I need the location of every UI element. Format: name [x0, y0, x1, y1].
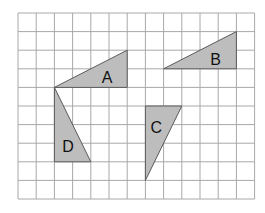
triangle-label: C — [151, 119, 163, 136]
triangle-label: A — [102, 69, 113, 86]
grid-diagram: ABCD — [0, 0, 265, 213]
triangle-label: B — [210, 51, 221, 68]
triangle-label: D — [62, 138, 74, 155]
